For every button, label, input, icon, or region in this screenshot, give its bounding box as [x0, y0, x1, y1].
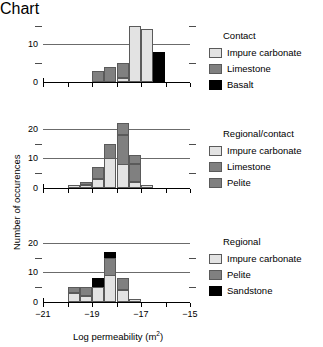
x-axis-title-close: ) [160, 331, 163, 342]
x-tick [43, 83, 44, 87]
x-tick [117, 83, 118, 87]
x-tick [117, 189, 118, 193]
bar-segment [80, 296, 92, 302]
y-minor-tick [35, 144, 42, 145]
x-tick [68, 189, 69, 193]
gridline [43, 44, 190, 45]
legend-item: Impure carbonate [209, 47, 323, 58]
legend-swatch-impure_carbonate [209, 146, 222, 156]
legend-label: Limestone [227, 161, 271, 172]
plot-area-regional-contact: 01020 [0, 110, 205, 210]
bar-segment [117, 135, 129, 165]
legend-item: Limestone [209, 161, 323, 172]
legend-swatch-pelite [209, 178, 222, 188]
bar-segment [141, 185, 153, 188]
bar-segment [92, 278, 104, 287]
bar-segment [68, 287, 80, 293]
y-tick-label: 10 [8, 268, 38, 277]
x-tick [166, 83, 167, 87]
bar-segment [104, 275, 116, 302]
bar-segment [117, 164, 129, 188]
bar-segment [104, 158, 116, 188]
legend-item: Impure carbonate [209, 145, 323, 156]
legend-item: Sandstone [209, 285, 323, 296]
y-tick-label: 20 [8, 125, 38, 134]
y-tick-label: 0 [8, 298, 38, 307]
x-tick-label: −15 [170, 310, 210, 319]
bar-segment [129, 182, 141, 188]
y-minor-tick [35, 63, 42, 64]
legend-label: Limestone [227, 63, 271, 74]
gridline [43, 243, 190, 244]
legend-swatch-limestone [209, 162, 222, 172]
legend-item: Pelite [209, 269, 323, 280]
legend-swatch-impure_carbonate [209, 48, 222, 58]
legend-label: Pelite [227, 177, 251, 188]
y-minor-tick [189, 173, 196, 174]
bar-segment [92, 179, 104, 188]
legend-swatch-pelite [209, 270, 222, 280]
x-tick-label: −21 [23, 310, 63, 319]
x-tick [190, 189, 191, 193]
legend-item: Impure carbonate [209, 253, 323, 264]
bar-segment [80, 185, 92, 188]
bar-segment [104, 67, 116, 82]
x-tick-label: −19 [72, 310, 112, 319]
y-minor-tick [189, 144, 196, 145]
x-tick [92, 83, 93, 87]
bar-segment [92, 287, 104, 302]
y-minor-tick [35, 26, 42, 27]
legend-regional: RegionalImpure carbonatePeliteSandstone [209, 236, 323, 301]
bar-segment [80, 287, 92, 296]
bar-segment [68, 293, 80, 302]
bar-segment [129, 155, 141, 164]
bar-segment [117, 278, 129, 290]
x-tick [166, 189, 167, 193]
legend-regional-contact: Regional/contactImpure carbonateLimeston… [209, 128, 323, 193]
legend-label: Impure carbonate [227, 47, 301, 58]
bar-segment [104, 258, 116, 276]
legend-label: Impure carbonate [227, 145, 301, 156]
gridline [43, 272, 190, 273]
legend-label: Sandstone [227, 285, 272, 296]
x-tick [43, 303, 44, 307]
bar-segment [117, 290, 129, 302]
legend-item: Basalt [209, 79, 323, 90]
bar-segment [80, 182, 92, 185]
x-tick [117, 303, 118, 307]
legend-title: Regional/contact [223, 128, 323, 139]
bar-segment [153, 52, 165, 82]
chart-figure: 010 ContactImpure carbonateLimestoneBasa… [0, 0, 323, 347]
legend-label: Pelite [227, 269, 251, 280]
bar-segment [104, 144, 116, 159]
bar-segment [129, 299, 141, 302]
legend-title: Regional [223, 236, 323, 247]
legend-item: Limestone [209, 63, 323, 74]
bar-segment [129, 164, 141, 182]
x-tick [166, 303, 167, 307]
y-tick-label: 10 [8, 40, 38, 49]
legend-label: Basalt [227, 79, 253, 90]
y-minor-tick [189, 26, 196, 27]
y-axis-title: Number of occurences [11, 154, 22, 250]
legend-swatch-basalt [209, 80, 222, 90]
legend-title: Contact [223, 30, 323, 41]
bar-segment [104, 252, 116, 258]
plot-area-contact: 010 [0, 8, 205, 108]
plot-area-regional: 01020−21−19−17−15 [0, 216, 205, 347]
x-tick [43, 189, 44, 193]
x-tick [68, 83, 69, 87]
y-minor-tick [35, 287, 42, 288]
panel-regional-contact: 01020 Regional/contactImpure carbonateLi… [0, 110, 323, 210]
legend-item: Pelite [209, 177, 323, 188]
x-tick [68, 303, 69, 307]
bar-segment [141, 29, 153, 82]
bar-segment [92, 167, 104, 179]
x-tick [141, 83, 142, 87]
y-tick-label: 0 [8, 78, 38, 87]
bar-segment [92, 71, 104, 82]
x-tick-label: −17 [121, 310, 161, 319]
y-minor-tick [189, 258, 196, 259]
y-minor-tick [189, 287, 196, 288]
x-tick [190, 303, 191, 307]
